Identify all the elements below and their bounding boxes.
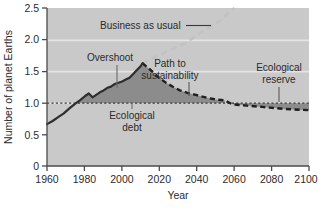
y-tick-label-0: 0 (33, 160, 39, 172)
x-tick-label-2080: 2080 (260, 173, 284, 185)
y-tick-label-1-0: 1.0 (24, 97, 39, 109)
annotation-path-to-sustainability-line1: Path to (154, 58, 186, 69)
annotation-path-to-sustainability-line2: sustainability (141, 70, 198, 81)
chart-figure: 2.5 2.0 1.5 1.0 0.5 0 1960 1980 2000 202… (0, 0, 324, 211)
x-tick-label-2100: 2100 (294, 173, 318, 185)
x-tick-label-2000: 2000 (110, 173, 134, 185)
x-tick-label-2060: 2060 (222, 173, 246, 185)
annotation-business-as-usual: Business as usual (100, 20, 181, 31)
annotation-ecological-debt-line2: debt (122, 122, 142, 133)
x-tick-label-2020: 2020 (148, 173, 172, 185)
y-tick-label-2-5: 2.5 (24, 2, 39, 14)
x-tick-label-1980: 1980 (73, 173, 97, 185)
y-tick-label-0-5: 0.5 (24, 129, 39, 141)
annotation-ecological-reserve-line1: Ecological (256, 62, 302, 73)
x-tick-label-1960: 1960 (35, 173, 59, 185)
y-axis-title: Number of planet Earths (2, 30, 14, 144)
plot-area-background (47, 8, 309, 166)
x-axis-title: Year (167, 189, 189, 201)
annotation-ecological-debt-line1: Ecological (109, 110, 155, 121)
ecological-footprint-chart: 2.5 2.0 1.5 1.0 0.5 0 1960 1980 2000 202… (0, 0, 324, 211)
annotation-overshoot: Overshoot (87, 52, 133, 63)
y-tick-label-1-5: 1.5 (24, 65, 39, 77)
x-tick-label-2040: 2040 (185, 173, 209, 185)
annotation-ecological-reserve-line2: reserve (262, 74, 296, 85)
y-tick-label-2-0: 2.0 (24, 33, 39, 45)
